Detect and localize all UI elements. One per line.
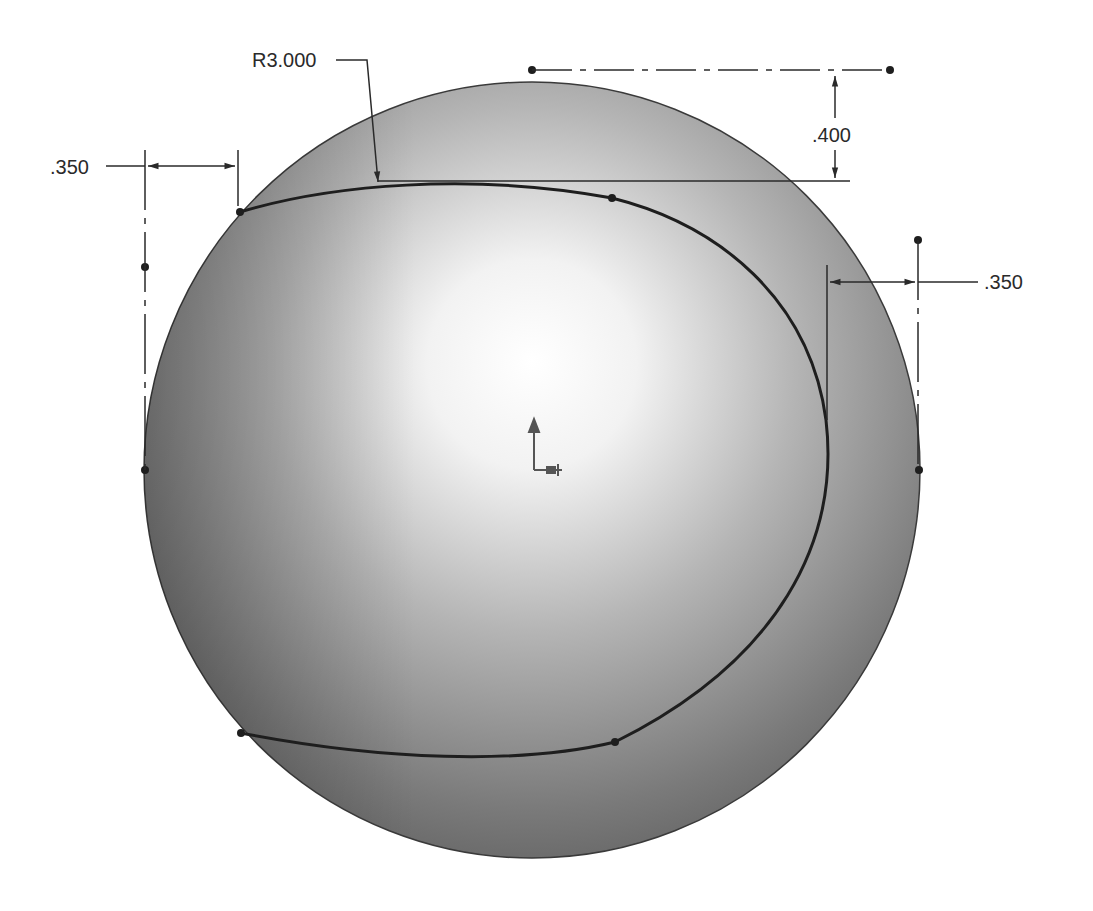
dimension-left-label[interactable]: .350 <box>50 156 89 178</box>
dimension-right-label[interactable]: .350 <box>984 271 1023 293</box>
dimension-radius-label[interactable]: R3.000 <box>252 49 317 71</box>
sketch-canvas[interactable]: .400 R3.000 .350 .350 <box>0 0 1093 911</box>
sphere[interactable] <box>144 82 920 858</box>
dimension-top-label[interactable]: .400 <box>812 124 851 146</box>
